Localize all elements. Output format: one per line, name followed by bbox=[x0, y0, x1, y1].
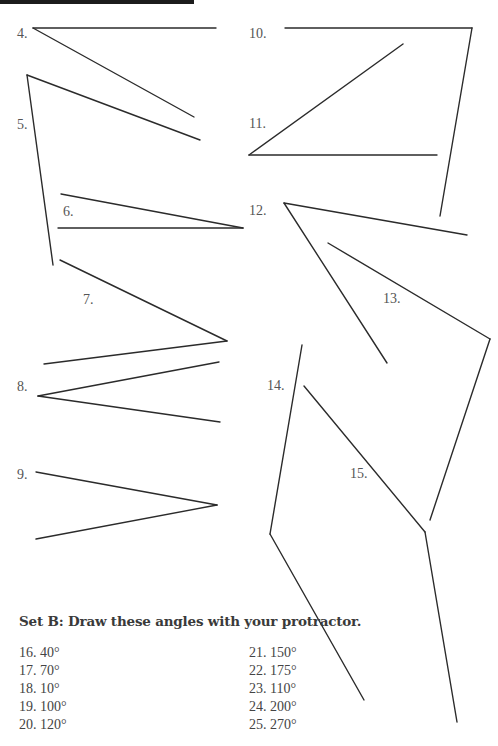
angle-ray bbox=[284, 203, 387, 363]
angle-item: 20. 120° bbox=[19, 716, 67, 734]
problem-number-label: 10. bbox=[249, 27, 267, 41]
angle-item: 16. 40° bbox=[19, 644, 67, 662]
angle-ray bbox=[430, 339, 490, 520]
angle-ray bbox=[284, 203, 467, 235]
angle-6 bbox=[58, 194, 243, 228]
angle-item: 21. 150° bbox=[249, 644, 297, 662]
angle-12 bbox=[284, 203, 467, 363]
set-b-heading: Set B: Draw these angles with your protr… bbox=[19, 613, 361, 629]
problem-number-label: 13. bbox=[383, 292, 401, 306]
angle-item: 19. 100° bbox=[19, 698, 67, 716]
angle-ray bbox=[328, 243, 490, 339]
problem-number-label: 8. bbox=[17, 380, 28, 394]
angle-ray bbox=[270, 345, 302, 534]
set-b-right-column: 21. 150° 22. 175° 23. 110° 24. 200° 25. … bbox=[249, 644, 297, 734]
angle-5 bbox=[27, 75, 200, 265]
angle-ray bbox=[27, 75, 200, 140]
problem-number-label: 7. bbox=[83, 293, 94, 307]
problem-number-label: 12. bbox=[249, 204, 267, 218]
problem-number-label: 4. bbox=[17, 27, 28, 41]
angle-ray bbox=[36, 472, 217, 505]
angle-item: 22. 175° bbox=[249, 662, 297, 680]
angle-ray bbox=[61, 194, 243, 228]
angle-item: 18. 10° bbox=[19, 680, 67, 698]
angle-item: 24. 200° bbox=[249, 698, 297, 716]
angle-ray bbox=[304, 386, 425, 532]
angle-11 bbox=[249, 44, 437, 155]
set-b-left-column: 16. 40° 17. 70° 18. 10° 19. 100° 20. 120… bbox=[19, 644, 67, 734]
angle-9 bbox=[36, 472, 217, 539]
angle-ray bbox=[44, 341, 227, 364]
problem-number-label: 6. bbox=[63, 205, 74, 219]
angle-ray bbox=[425, 532, 457, 722]
angle-figures bbox=[0, 0, 498, 746]
angle-ray bbox=[249, 44, 403, 155]
angle-ray bbox=[38, 362, 219, 396]
angle-10 bbox=[285, 28, 472, 216]
problem-number-label: 11. bbox=[249, 117, 266, 131]
angle-item: 17. 70° bbox=[19, 662, 67, 680]
angle-item: 25. 270° bbox=[249, 716, 297, 734]
angle-4 bbox=[33, 28, 216, 117]
angle-ray bbox=[440, 28, 472, 216]
problem-number-label: 5. bbox=[17, 118, 28, 132]
angle-ray bbox=[27, 75, 53, 265]
angle-ray bbox=[36, 505, 217, 539]
problem-number-label: 14. bbox=[267, 379, 285, 393]
problem-number-label: 9. bbox=[17, 468, 28, 482]
angle-8 bbox=[38, 362, 220, 422]
angle-item: 23. 110° bbox=[249, 680, 297, 698]
problem-number-label: 15. bbox=[350, 467, 368, 481]
angle-7 bbox=[44, 260, 227, 364]
angle-ray bbox=[33, 28, 194, 117]
angle-15 bbox=[304, 386, 457, 722]
angle-ray bbox=[38, 396, 220, 422]
